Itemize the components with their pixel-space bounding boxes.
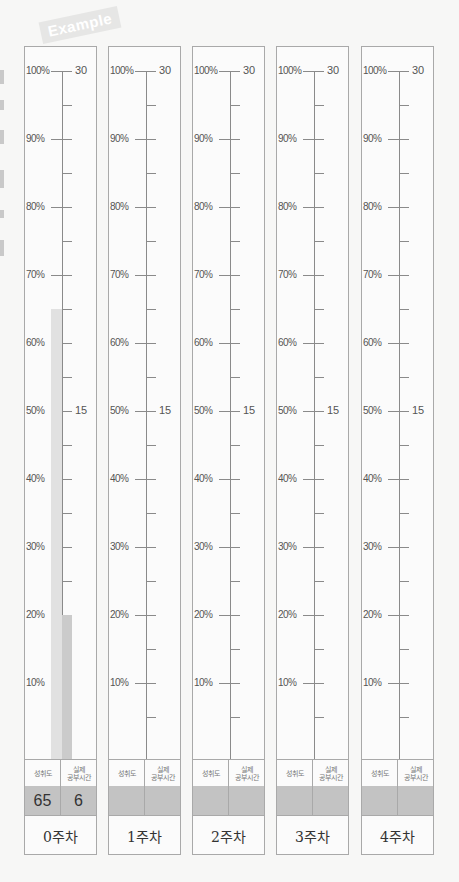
percent-label: 80% [110, 201, 138, 212]
percent-label: 100% [110, 65, 138, 76]
hour-tick [230, 411, 240, 412]
achievement-value[interactable] [277, 786, 313, 815]
hour-tick [219, 71, 240, 72]
hour-tick [146, 173, 156, 174]
achievement-bar [51, 309, 62, 759]
percent-label: 10% [194, 677, 222, 688]
achievement-value[interactable]: 65 [25, 786, 61, 815]
bar-graph: 100%90%80%70%60%50%40%30%20%10%3015 [277, 47, 348, 759]
hour-tick [399, 581, 409, 582]
percent-label: 90% [363, 133, 391, 144]
hour-tick [314, 241, 324, 242]
hour-label: 30 [412, 64, 424, 76]
hour-tick [146, 615, 156, 616]
achievement-value[interactable] [109, 786, 145, 815]
hours-value[interactable] [313, 786, 348, 815]
hour-tick [314, 343, 324, 344]
hour-label: 15 [159, 404, 171, 416]
percent-label: 100% [363, 65, 391, 76]
percent-label: 30% [110, 541, 138, 552]
achievement-value[interactable] [193, 786, 229, 815]
percent-label: 80% [194, 201, 222, 212]
hour-tick [399, 275, 409, 276]
achievement-header: 성취도 [109, 760, 145, 787]
hour-tick [230, 615, 240, 616]
achievement-header: 성취도 [362, 760, 398, 787]
hour-label: 15 [412, 404, 424, 416]
week-column: 100%90%80%70%60%50%40%30%20%10%3015 성취도 … [24, 46, 97, 855]
hour-tick [62, 377, 72, 378]
hour-label: 15 [243, 404, 255, 416]
hours-value[interactable] [145, 786, 180, 815]
hour-tick [62, 207, 72, 208]
hour-tick [62, 513, 72, 514]
hour-tick [146, 241, 156, 242]
hours-value[interactable]: 6 [61, 786, 96, 815]
study-hours-bar [62, 615, 72, 759]
column-header-row: 성취도 실제 공부시간 [25, 759, 96, 787]
hour-label: 30 [159, 64, 171, 76]
cut-off-margin-text [0, 60, 5, 310]
vertical-axis [146, 71, 147, 759]
vertical-axis [230, 71, 231, 759]
hour-tick [399, 411, 409, 412]
hour-tick [314, 445, 324, 446]
hour-tick [314, 173, 324, 174]
percent-label: 80% [278, 201, 306, 212]
percent-label: 10% [363, 677, 391, 688]
hour-tick [230, 445, 240, 446]
percent-label: 100% [278, 65, 306, 76]
hour-tick [230, 275, 240, 276]
hour-label: 30 [243, 64, 255, 76]
bar-graph: 100%90%80%70%60%50%40%30%20%10%3015 [109, 47, 180, 759]
hour-tick [230, 173, 240, 174]
hour-tick [146, 309, 156, 310]
percent-label: 20% [194, 609, 222, 620]
percent-label: 30% [26, 541, 54, 552]
hour-tick [399, 309, 409, 310]
percent-label: 30% [363, 541, 391, 552]
value-row [362, 786, 433, 815]
hours-value[interactable] [229, 786, 264, 815]
percent-label: 40% [278, 473, 306, 484]
hours-value[interactable] [398, 786, 433, 815]
hour-tick [314, 105, 324, 106]
week-column: 100%90%80%70%60%50%40%30%20%10%3015 성취도 … [108, 46, 181, 855]
week-column: 100%90%80%70%60%50%40%30%20%10%3015 성취도 … [192, 46, 265, 855]
hour-tick [146, 275, 156, 276]
hour-tick [230, 241, 240, 242]
percent-label: 60% [26, 337, 54, 348]
hour-tick [399, 343, 409, 344]
percent-label: 60% [278, 337, 306, 348]
hour-tick [230, 513, 240, 514]
hour-tick [399, 479, 409, 480]
hour-label: 30 [75, 64, 87, 76]
percent-label: 100% [194, 65, 222, 76]
hour-tick [146, 105, 156, 106]
week-label: 3주차 [277, 815, 348, 855]
hour-tick [62, 547, 72, 548]
percent-label: 20% [278, 609, 306, 620]
hour-tick [314, 377, 324, 378]
hour-tick [62, 479, 72, 480]
hour-tick [314, 683, 324, 684]
achievement-value[interactable] [362, 786, 398, 815]
hour-tick [399, 615, 409, 616]
percent-label: 70% [26, 269, 54, 280]
hour-tick [314, 309, 324, 310]
hour-tick [230, 343, 240, 344]
achievement-header: 성취도 [193, 760, 229, 787]
hour-tick [399, 683, 409, 684]
percent-label: 60% [110, 337, 138, 348]
hour-tick [146, 581, 156, 582]
hour-tick [399, 139, 409, 140]
percent-label: 60% [363, 337, 391, 348]
column-header-row: 성취도 실제 공부시간 [277, 759, 348, 787]
percent-label: 90% [110, 133, 138, 144]
percent-label: 30% [278, 541, 306, 552]
hour-tick [146, 683, 156, 684]
hour-tick [62, 343, 72, 344]
hour-tick [314, 581, 324, 582]
percent-label: 100% [26, 65, 54, 76]
value-row [193, 786, 264, 815]
